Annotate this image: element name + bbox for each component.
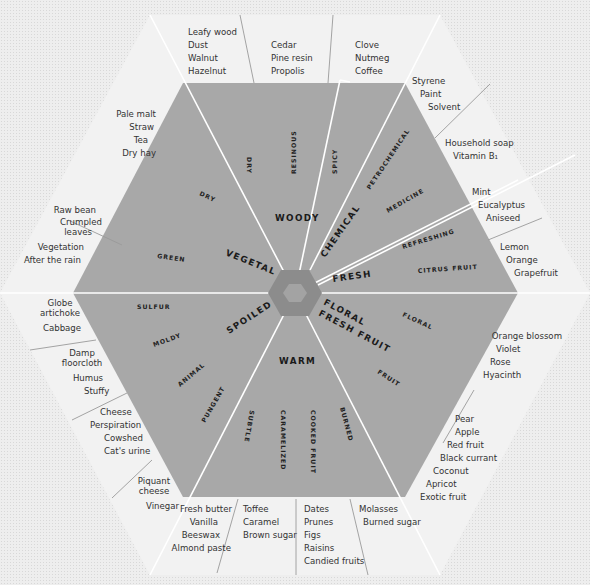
descriptor: Nutmeg	[355, 52, 389, 65]
descriptor: Cabbage	[38, 322, 82, 335]
descriptor: Apricot	[426, 478, 497, 491]
sub-caramelized: CARAMELIZED	[280, 410, 287, 470]
descriptors-pungent: Piquant cheese Vinegar	[134, 476, 174, 513]
descriptor: Cowshed	[90, 432, 150, 445]
descriptor: Black currant	[440, 452, 497, 465]
descriptor: Cat's urine	[90, 445, 150, 458]
descriptor: Solvent	[412, 101, 460, 114]
descriptors-floral-rest: Violet Rose Hyacinth	[496, 343, 521, 382]
descriptor: Figs	[304, 529, 364, 542]
descriptor: Grapefruit	[500, 267, 558, 280]
descriptor: Eucalyptus	[472, 199, 525, 212]
descriptor: Dust	[188, 39, 237, 52]
descriptor: Leafy wood	[188, 26, 237, 39]
descriptor: Piquant	[134, 476, 174, 486]
descriptor: Dates	[304, 503, 364, 516]
descriptor: Stuffy	[60, 385, 104, 398]
descriptor: Cedar	[271, 39, 313, 52]
descriptor: Vanilla	[168, 516, 232, 529]
descriptor: Mint	[472, 186, 525, 199]
descriptor: Apple	[455, 426, 497, 439]
descriptor: Coffee	[355, 65, 389, 78]
descriptor: Red fruit	[447, 439, 497, 452]
descriptor: Candied fruits	[304, 555, 364, 568]
descriptor: Cheese	[90, 406, 150, 419]
descriptors-cooked: Dates Prunes Figs Raisins Candied fruits	[304, 503, 364, 568]
descriptor: Beeswax	[168, 529, 232, 542]
descriptor: Vegetation	[24, 241, 102, 254]
descriptor: Clove	[355, 39, 389, 52]
descriptor: Orange blossom	[482, 330, 562, 343]
descriptor: Propolis	[271, 65, 313, 78]
descriptor: Aniseed	[472, 212, 525, 225]
descriptor: Humus	[60, 372, 104, 385]
descriptor: Prunes	[304, 516, 364, 529]
descriptor: Styrene	[412, 75, 460, 88]
descriptor: Pear	[455, 413, 497, 426]
descriptors-green: Raw bean Crumpled leaves Vegetation Afte…	[24, 204, 102, 267]
descriptor: Brown sugar	[243, 529, 297, 542]
descriptor: Globe	[38, 298, 82, 308]
descriptor: Crumpled	[24, 217, 102, 227]
descriptors-spicy: Clove Nutmeg Coffee	[355, 39, 389, 78]
aroma-wheel: WOODY CHEMICAL FRESH FLORAL FRESH FRUIT …	[0, 0, 590, 585]
family-warm: WARM	[279, 356, 316, 366]
sub-resinous: RESINOUS	[290, 130, 297, 174]
descriptor: Tea	[92, 134, 156, 147]
descriptor: leaves	[24, 227, 102, 237]
descriptor: Pale malt	[92, 108, 156, 121]
descriptor: Paint	[412, 88, 460, 101]
descriptor: Toffee	[243, 503, 297, 516]
descriptor: Raisins	[304, 542, 364, 555]
descriptor: Hazelnut	[188, 65, 237, 78]
descriptors-resinous: Cedar Pine resin Propolis	[271, 39, 313, 78]
descriptors-fruit: Pear Apple Red fruit Black currant Cocon…	[455, 413, 497, 504]
descriptor: Damp	[60, 348, 104, 358]
descriptors-medicine: Household soap Vitamin B₁	[445, 137, 514, 163]
descriptor: floorcloth	[60, 358, 104, 368]
descriptors-dry-woody: Leafy wood Dust Walnut Hazelnut	[188, 26, 237, 78]
sub-spicy: SPICY	[331, 149, 338, 174]
descriptors-petrochemical: Styrene Paint Solvent	[412, 75, 460, 114]
descriptors-burned: Molasses Burned sugar	[359, 503, 421, 529]
sub-sulfur: SULFUR	[137, 303, 170, 310]
descriptor: Dry hay	[92, 147, 156, 160]
descriptors-dry-vegetal: Pale malt Straw Tea Dry hay	[92, 108, 156, 160]
descriptor: Straw	[92, 121, 156, 134]
descriptors-caramelized: Toffee Caramel Brown sugar	[243, 503, 297, 542]
descriptor: Violet	[496, 343, 521, 356]
descriptor: Molasses	[359, 503, 421, 516]
family-woody: WOODY	[275, 213, 320, 223]
descriptor: Household soap	[445, 137, 514, 150]
descriptor: Vinegar	[134, 500, 174, 513]
descriptors-animal: Cheese Perspiration Cowshed Cat's urine	[90, 406, 150, 458]
descriptor: Raw bean	[24, 204, 102, 217]
descriptor: Exotic fruit	[420, 491, 497, 504]
descriptor: Burned sugar	[359, 516, 421, 529]
descriptor: artichoke	[38, 308, 82, 318]
descriptor: cheese	[134, 486, 174, 496]
descriptor: Hyacinth	[483, 369, 521, 382]
sub-dry-woody: DRY	[246, 157, 253, 174]
descriptor: Lemon	[500, 241, 558, 254]
descriptors-sulfur: Globe artichoke Cabbage	[38, 298, 82, 335]
descriptor: Rose	[490, 356, 521, 369]
descriptors-moldy: Damp floorcloth Humus Stuffy	[60, 348, 104, 398]
descriptor: Perspiration	[90, 419, 150, 432]
descriptor: Orange	[500, 254, 558, 267]
descriptor: Coconut	[433, 465, 497, 478]
descriptors-refreshing: Mint Eucalyptus Aniseed	[472, 186, 525, 225]
descriptor: Vitamin B₁	[445, 150, 514, 163]
descriptor: After the rain	[24, 254, 102, 267]
descriptors-floral: Orange blossom	[482, 330, 562, 343]
descriptor: Caramel	[243, 516, 297, 529]
sub-cooked: COOKED FRUIT	[310, 410, 317, 474]
descriptor: Almond paste	[168, 542, 232, 555]
descriptors-citrus: Lemon Orange Grapefruit	[500, 241, 558, 280]
descriptor: Pine resin	[271, 52, 313, 65]
descriptor: Walnut	[188, 52, 237, 65]
